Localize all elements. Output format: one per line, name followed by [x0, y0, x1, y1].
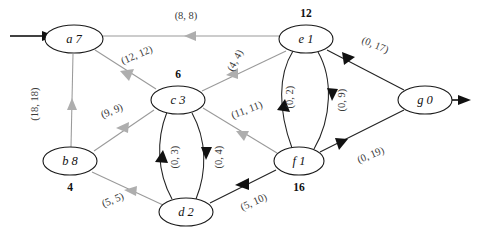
node-e[interactable]: e 1: [279, 25, 333, 53]
edge-e-g: [327, 50, 404, 90]
edge-e-f: [314, 52, 338, 149]
edge-label-f-e: (0, 2): [284, 85, 296, 108]
node-g-text: g 0: [417, 93, 433, 107]
edge-label-d-b: (5, 5): [100, 190, 126, 210]
edge-label-b-a: (18, 18): [29, 87, 41, 121]
edge-e-c: [202, 51, 286, 91]
sink-terminal-arrow: [452, 95, 471, 105]
node-c[interactable]: c 3: [151, 86, 205, 114]
edge-label-c-a: (12, 12): [119, 43, 155, 67]
node-d-text: d 2: [178, 205, 194, 219]
graph-diagram: (8, 8) (12, 12) (18, 18) (4, 4) (9, 9) (…: [0, 0, 480, 244]
edge-b-a: [67, 54, 77, 147]
node-d[interactable]: d 2: [159, 198, 213, 226]
edge-label-f-c: (11, 11): [230, 99, 265, 122]
node-c-label: 6: [175, 68, 181, 80]
edge-label-f-d: (5, 10): [239, 191, 270, 214]
edge-label-f-g: (0, 19): [356, 144, 387, 166]
node-e-text: e 1: [299, 32, 314, 46]
node-a-text: a 7: [66, 32, 82, 46]
node-c-text: c 3: [171, 93, 186, 107]
node-f-label: 16: [293, 181, 305, 193]
edge-label-e-f: (0, 9): [336, 88, 348, 111]
node-g[interactable]: g 0: [398, 86, 452, 114]
edge-label-c-b: (9, 9): [99, 101, 125, 121]
node-e-label: 12: [300, 7, 312, 19]
node-f-text: f 1: [293, 154, 306, 168]
node-b-label: 4: [67, 181, 73, 193]
edge-label-e-a: (8, 8): [175, 10, 198, 22]
graph-canvas: (8, 8) (12, 12) (18, 18) (4, 4) (9, 9) (…: [0, 0, 480, 244]
edge-c-d: [192, 113, 212, 199]
edge-e-a: [103, 31, 279, 41]
node-b[interactable]: b 8: [43, 147, 97, 175]
edge-label-e-g: (0, 17): [360, 34, 391, 56]
edge-label-d-c: (0, 3): [169, 145, 181, 168]
edge-label-c-d: (0, 4): [213, 145, 225, 168]
edge-label-e-c: (4, 4): [225, 47, 247, 73]
node-f[interactable]: f 1: [274, 147, 324, 175]
node-b-text: b 8: [62, 154, 78, 168]
node-a[interactable]: a 7: [45, 25, 103, 53]
edge-f-g: [320, 110, 404, 152]
